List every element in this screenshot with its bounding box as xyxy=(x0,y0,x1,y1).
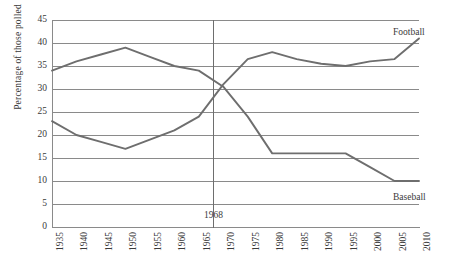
annotation-label-1968: 1968 xyxy=(204,210,223,220)
y-axis-tick-label: 40 xyxy=(38,38,48,48)
x-axis-tick-label: 1950 xyxy=(129,232,139,251)
plot-area: 051015202530354045 xyxy=(52,20,419,227)
x-axis-tick-label: 1970 xyxy=(227,232,237,251)
gridline xyxy=(52,43,419,44)
x-axis-tick-label: 1995 xyxy=(350,232,360,251)
y-axis-tick-label: 35 xyxy=(38,61,48,71)
x-axis-tick-label: 1935 xyxy=(56,232,66,251)
gridline xyxy=(52,20,419,21)
y-axis-tick-label: 45 xyxy=(38,15,48,25)
gridline xyxy=(52,181,419,182)
x-axis-tick-label: 1940 xyxy=(80,232,90,251)
x-axis-tick-label: 2005 xyxy=(399,232,409,251)
y-axis-tick-label: 15 xyxy=(38,153,48,163)
annotation-vertical-line-1968 xyxy=(213,20,215,228)
gridline xyxy=(52,204,419,205)
line-chart: Percentage of those polled 0510152025303… xyxy=(0,0,465,275)
y-axis-tick-label: 25 xyxy=(38,107,48,117)
y-axis-tick-label: 5 xyxy=(42,199,47,209)
x-axis-tick-label: 1965 xyxy=(203,232,213,251)
y-axis-tick-label: 10 xyxy=(38,176,48,186)
x-axis-tick-label: 1945 xyxy=(105,232,115,251)
x-axis-tick-label: 1955 xyxy=(154,232,164,251)
x-axis-tick-label: 1985 xyxy=(301,232,311,251)
y-axis-tick-label: 0 xyxy=(42,222,47,232)
x-axis-tick-label: 1980 xyxy=(276,232,286,251)
x-axis-tick-label: 2000 xyxy=(374,232,384,251)
gridline xyxy=(52,158,419,159)
gridline xyxy=(52,112,419,113)
x-axis-tick-label: 1975 xyxy=(252,232,262,251)
x-axis-tick-label: 1990 xyxy=(325,232,335,251)
gridline xyxy=(52,89,419,90)
y-axis-tick-label: 30 xyxy=(38,84,48,94)
x-axis-tick-label: 1960 xyxy=(178,232,188,251)
y-axis-tick-label: 20 xyxy=(38,130,48,140)
gridline xyxy=(52,66,419,67)
series-label-football: Football xyxy=(393,27,425,37)
x-axis-tick-label: 2010 xyxy=(423,232,433,251)
gridline xyxy=(52,135,419,136)
y-axis-title: Percentage of those polled xyxy=(13,0,33,142)
x-axis-line xyxy=(52,227,420,228)
series-label-baseball: Baseball xyxy=(393,192,426,202)
